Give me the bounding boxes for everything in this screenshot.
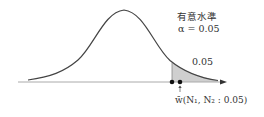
statistic-point-dot [178,80,183,85]
pointer-arrow-icon [178,86,181,89]
critical-value-label: w̄(N₁, N₂ : 0.05) [175,95,247,105]
critical-point-dot [170,80,175,85]
distribution-diagram: 有意水準 α = 0.05 0.05 w̄(N₁, N₂ : 0.05) [0,0,264,117]
significance-title: 有意水準 [177,11,217,22]
axis-arrow-icon [220,80,227,85]
tail-area-label: 0.05 [192,56,213,67]
alpha-label: α = 0.05 [178,23,220,34]
